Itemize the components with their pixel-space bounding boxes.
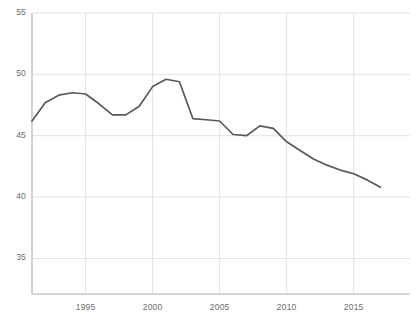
x-tick-2000: 2000 xyxy=(133,302,173,312)
y-tick-35: 35 xyxy=(4,252,26,262)
y-tick-45: 45 xyxy=(4,130,26,140)
x-tick-2010: 2010 xyxy=(267,302,307,312)
line-chart: 5550454035 19952000200520102015 xyxy=(0,0,418,327)
vertical-gridlines xyxy=(86,13,354,294)
x-tick-2005: 2005 xyxy=(200,302,240,312)
x-tick-1995: 1995 xyxy=(66,302,106,312)
y-tick-50: 50 xyxy=(4,68,26,78)
data-series-line xyxy=(32,79,381,187)
y-tick-55: 55 xyxy=(4,7,26,17)
plot-area xyxy=(0,0,418,327)
y-tick-40: 40 xyxy=(4,191,26,201)
x-tick-2015: 2015 xyxy=(334,302,374,312)
